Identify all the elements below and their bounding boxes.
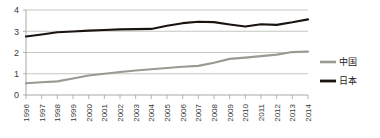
chart-canvas: 01234 1996199719981999200020012002200320… bbox=[0, 0, 380, 138]
y-axis-tick-labels: 01234 bbox=[14, 5, 19, 100]
x-tick-label: 2006 bbox=[179, 103, 188, 121]
series-line-日本 bbox=[26, 19, 308, 36]
x-tick-label: 2000 bbox=[85, 103, 94, 121]
x-tick-label: 1998 bbox=[53, 103, 62, 121]
x-tick-label: 2001 bbox=[100, 103, 109, 121]
series-line-中国 bbox=[26, 51, 308, 83]
x-tick-label: 2009 bbox=[226, 103, 235, 121]
x-tick-label: 2011 bbox=[257, 103, 266, 121]
y-tick-label: 1 bbox=[14, 69, 19, 79]
x-tick-label: 1999 bbox=[69, 103, 78, 121]
legend-label-日本: 日本 bbox=[339, 75, 357, 86]
x-tick-label: 2007 bbox=[194, 103, 203, 121]
x-tick-label: 2003 bbox=[132, 103, 141, 121]
gridlines bbox=[26, 10, 308, 95]
x-tick-label: 2004 bbox=[147, 103, 156, 121]
x-tick-label: 2010 bbox=[241, 103, 250, 121]
legend-label-中国: 中国 bbox=[339, 56, 357, 67]
x-tick-label: 2005 bbox=[163, 103, 172, 121]
x-tick-label: 2013 bbox=[288, 103, 297, 121]
x-tick-label: 2008 bbox=[210, 103, 219, 121]
y-tick-label: 2 bbox=[14, 48, 19, 58]
x-axis-tick-labels: 1996199719981999200020012002200320042005… bbox=[22, 103, 313, 121]
line-chart: 01234 1996199719981999200020012002200320… bbox=[0, 0, 380, 138]
x-tick-label: 2014 bbox=[304, 103, 313, 121]
y-tick-label: 4 bbox=[14, 5, 19, 15]
y-axis bbox=[23, 10, 26, 95]
chart-legend: 中国日本 bbox=[320, 56, 357, 86]
x-tick-label: 1996 bbox=[22, 103, 31, 121]
x-axis bbox=[26, 95, 308, 99]
x-tick-label: 2002 bbox=[116, 103, 125, 121]
x-tick-label: 2012 bbox=[273, 103, 282, 121]
y-tick-label: 0 bbox=[14, 90, 19, 100]
y-tick-label: 3 bbox=[14, 27, 19, 37]
x-tick-label: 1997 bbox=[38, 103, 47, 121]
